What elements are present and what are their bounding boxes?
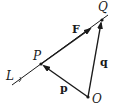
label-p: p	[60, 82, 68, 95]
label-q: q	[100, 56, 108, 69]
point-O	[86, 95, 89, 98]
label-F: F	[72, 23, 80, 36]
vector-diagram: L P Q O F p q	[0, 0, 116, 105]
vector-F	[41, 29, 90, 64]
label-O: O	[92, 92, 102, 105]
label-L: L	[5, 69, 14, 83]
point-Q	[100, 18, 103, 21]
diagram-canvas: L P Q O F p q	[0, 0, 116, 105]
label-P: P	[32, 49, 42, 63]
label-Q: Q	[98, 0, 108, 14]
